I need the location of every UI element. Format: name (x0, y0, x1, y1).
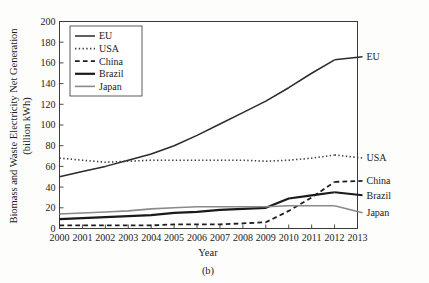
x-tick-label: 2004 (141, 232, 161, 243)
x-tick-label: 2011 (302, 232, 322, 243)
y-tick-label: 200 (41, 16, 56, 27)
figure-caption: (b) (202, 265, 215, 277)
legend-label-usa: USA (99, 43, 120, 54)
x-tick-label: 2003 (118, 232, 138, 243)
y-tick-label: 180 (41, 37, 56, 48)
y-tick-label: 140 (41, 78, 56, 89)
y-tick-label: 80 (46, 140, 56, 151)
y-axis-units: (billion kWh) (21, 97, 33, 155)
legend: EUUSAChinaBrazilJapan (70, 26, 142, 96)
y-tick-label: 40 (46, 182, 56, 193)
x-axis-title: Year (198, 247, 218, 258)
series-end-label-brazil: Brazil (367, 190, 392, 201)
y-tick-label: 160 (41, 57, 56, 68)
x-tick-label: 2001 (72, 232, 92, 243)
legend-label-japan: Japan (99, 81, 122, 92)
series-end-label-china: China (367, 175, 391, 186)
figure-container: 020406080100120140160180200 200020012002… (0, 0, 429, 283)
y-tick-label: 120 (41, 99, 56, 110)
x-tick-label: 2009 (256, 232, 276, 243)
series-end-label-eu: EU (367, 51, 381, 62)
legend-label-eu: EU (99, 30, 113, 41)
x-tick-label: 2005 (164, 232, 184, 243)
x-tick-label: 2007 (210, 232, 230, 243)
x-tick-label: 2002 (95, 232, 115, 243)
x-tick-label: 2006 (187, 232, 207, 243)
series-end-label-usa: USA (367, 152, 388, 163)
x-tick-label: 2012 (325, 232, 345, 243)
x-tick-label: 2010 (279, 232, 299, 243)
legend-label-brazil: Brazil (99, 68, 124, 79)
x-tick-label: 2008 (233, 232, 253, 243)
line-chart: 020406080100120140160180200 200020012002… (0, 0, 429, 283)
y-axis-title: Biomass and Waste Electricity Net Genera… (8, 28, 19, 224)
x-tick-label: 2000 (50, 232, 70, 243)
y-tick-label: 60 (46, 161, 56, 172)
series-end-label-japan: Japan (367, 207, 390, 218)
legend-label-china: China (99, 56, 123, 67)
y-tick-label: 20 (46, 202, 56, 213)
x-tick-label: 2013 (348, 232, 368, 243)
y-tick-label: 100 (41, 119, 56, 130)
